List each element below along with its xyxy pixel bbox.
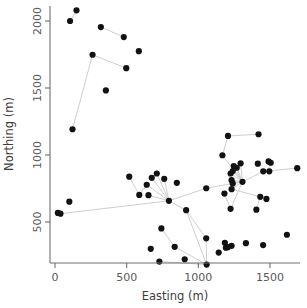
x-tick-label: 0 [52,271,59,284]
y-tick-label: 1000 [31,141,44,169]
data-point [123,65,129,71]
edge-line [93,55,127,68]
data-point [183,207,189,213]
edge-line [60,201,169,214]
data-point [227,170,233,176]
x-tick-label: 500 [116,271,137,284]
data-point [121,34,127,40]
edge-line [169,188,206,201]
data-point [260,168,266,174]
data-point [158,225,164,231]
y-axis-ticks: 500100015002000 [31,7,50,233]
data-point [255,131,261,137]
data-point [98,24,104,30]
data-point [174,180,180,186]
data-point [148,246,154,252]
data-point [284,232,290,238]
x-tick-label: 1500 [256,271,284,284]
data-point [172,244,178,250]
y-tick-label: 1500 [31,74,44,102]
data-point [294,165,300,171]
edge-line [228,134,259,136]
data-point [89,52,95,58]
data-point [154,170,160,176]
data-point [257,194,263,200]
edge-line [101,27,124,37]
data-point [136,48,142,54]
data-point [144,182,150,188]
data-point [230,180,236,186]
data-point [268,160,274,166]
x-tick-label: 1000 [184,271,212,284]
data-points [55,7,301,268]
data-point [204,262,210,268]
data-point [136,192,142,198]
data-point [239,179,245,185]
data-point [225,133,231,139]
y-tick-label: 2000 [31,7,44,35]
y-axis-title: Northing (m) [2,97,16,171]
data-point [69,126,75,132]
data-point [228,186,234,192]
edge-line [161,228,174,246]
plot-canvas: 050010001500 500100015002000 Easting (m)… [0,0,307,308]
data-point [57,211,63,217]
data-point [221,190,227,196]
data-point [66,199,72,205]
x-axis-title: Easting (m) [142,289,208,303]
data-point [166,198,172,204]
data-point [182,256,188,262]
edge-line [175,247,207,265]
data-point [73,7,79,13]
data-point [161,176,167,182]
scatter-plot-figure: 050010001500 500100015002000 Easting (m)… [0,0,307,308]
data-point [260,242,266,248]
data-point [149,175,155,181]
y-tick-label: 500 [31,212,44,233]
data-point [156,258,162,264]
edge-line [186,210,206,238]
edge-line [72,55,92,130]
data-point [216,249,222,255]
x-axis-ticks: 050010001500 [52,263,285,284]
data-point [243,240,249,246]
data-point [227,206,233,212]
data-point [219,152,225,158]
edge-line [242,171,263,181]
data-point [145,192,151,198]
data-point [263,196,269,202]
data-point [253,207,259,213]
data-point [203,235,209,241]
data-point [126,174,132,180]
data-point [67,18,73,24]
data-point [266,168,272,174]
edge-line [129,177,139,195]
data-point [255,161,261,167]
data-point [203,185,209,191]
data-point [103,87,109,93]
data-point [223,245,229,251]
network-edges [60,10,297,264]
